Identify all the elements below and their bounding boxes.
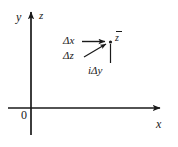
point-symbol: z [115, 33, 122, 43]
axis-label-y: y [16, 11, 21, 23]
point-marker [109, 40, 112, 43]
figure-canvas: y z x 0 Δx Δz iΔy z [0, 0, 178, 147]
delta-x-label: Δx [63, 35, 74, 46]
delta-z-label: Δz [63, 50, 74, 61]
delta-z-leader [84, 44, 106, 57]
axis-label-x: x [156, 118, 161, 130]
point-label-z-bar: z [115, 31, 122, 43]
axis-label-z: z [39, 10, 43, 21]
origin-label: 0 [21, 109, 27, 121]
i-delta-y-label: iΔy [88, 65, 102, 76]
